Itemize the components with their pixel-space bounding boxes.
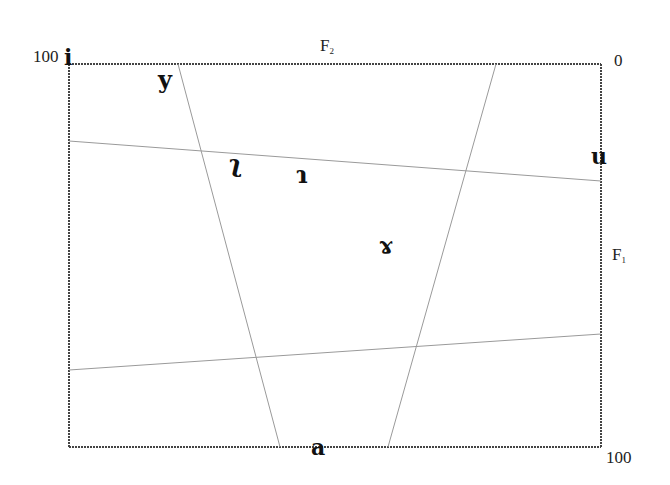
- vowel-dental-apical: ɿ: [296, 163, 308, 187]
- f2-max-label: 100: [33, 48, 59, 65]
- vowel-quadrilateral-diagram: [0, 0, 670, 485]
- vowel-a: a: [311, 436, 325, 458]
- f1-min-label: 0: [614, 52, 623, 69]
- f1-axis-label: F1: [612, 246, 626, 265]
- vowel-ram-horns: ɤ: [379, 234, 393, 256]
- vowel-retroflex-apical: ʅ: [229, 152, 242, 176]
- vowel-u: u: [591, 145, 607, 167]
- vowel-y: y: [158, 68, 172, 92]
- f2-axis-subscript: 2: [329, 46, 334, 56]
- guide-lower-horizontal: [69, 334, 601, 370]
- f1-max-label: 100: [606, 449, 632, 466]
- vowel-i: i: [64, 46, 72, 68]
- guide-left-diagonal: [178, 64, 280, 447]
- f2-axis-label: F2: [320, 37, 334, 56]
- guide-right-diagonal: [388, 64, 496, 447]
- guide-upper-horizontal: [69, 141, 601, 181]
- f1-axis-subscript: 1: [621, 255, 626, 265]
